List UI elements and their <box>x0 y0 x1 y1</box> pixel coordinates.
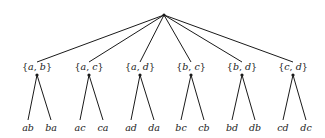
set-node-dot <box>35 73 38 76</box>
set-label: {a, b} <box>22 61 52 72</box>
tree-edge <box>80 75 89 120</box>
set-label: {b, d} <box>227 61 257 72</box>
leaf-label: bd <box>226 122 238 133</box>
leaf-label: db <box>249 122 261 133</box>
tree-edge <box>37 75 51 120</box>
leaf-label: da <box>148 122 160 133</box>
tree-edge <box>140 75 154 120</box>
tree-edge <box>293 75 306 120</box>
leaf-label: cb <box>198 122 209 133</box>
tree-edge <box>232 75 242 120</box>
tree-edge <box>28 75 37 120</box>
set-label: {a, d} <box>125 61 155 72</box>
set-label: {b, c} <box>176 61 206 72</box>
set-node-dot <box>240 73 243 76</box>
tree-edge <box>164 15 293 62</box>
leaf-label: cd <box>277 122 288 133</box>
tree-edge <box>181 75 191 120</box>
leaf-label: bc <box>175 122 186 133</box>
leaf-label: ad <box>125 122 137 133</box>
tree-edge <box>164 15 191 62</box>
leaf-label: ca <box>98 122 109 133</box>
set-label: {c, d} <box>278 61 308 72</box>
set-node-dot <box>87 73 90 76</box>
set-node-dot <box>138 73 141 76</box>
leaf-label: ab <box>22 122 34 133</box>
set-node-dot <box>291 73 294 76</box>
root-node-dot <box>162 13 165 16</box>
leaf-label: dc <box>300 122 311 133</box>
tree-edge <box>89 75 103 120</box>
tree-edge <box>191 75 204 120</box>
leaf-label: ac <box>75 122 86 133</box>
tree-edge <box>242 75 255 120</box>
tree-edge <box>283 75 293 120</box>
set-node-dot <box>189 73 192 76</box>
set-label: {a, c} <box>74 61 103 72</box>
leaf-label: ba <box>45 122 57 133</box>
tree-edge <box>164 15 242 62</box>
tree-edge <box>131 75 140 120</box>
